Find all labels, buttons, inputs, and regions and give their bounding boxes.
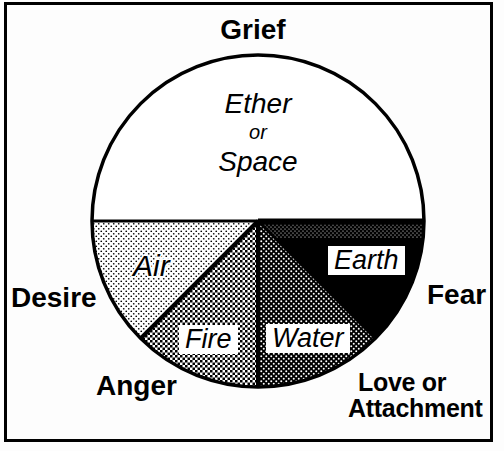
element-label-or: or [158,120,358,145]
emotion-label-anger: Anger [96,371,177,401]
element-label-ether-space: Ether or Space [158,87,358,178]
element-label-air: Air [133,249,170,283]
emotion-label-fear: Fear [427,280,486,310]
element-label-water: Water [266,324,350,353]
emotion-label-love-line2: Attachment [348,395,483,421]
emotion-label-love-attachment: Love or Attachment [348,369,483,421]
emotion-label-desire: Desire [11,283,97,313]
earth-halftone-band [258,224,426,238]
element-label-earth: Earth [328,246,405,275]
element-label-space: Space [158,145,358,178]
element-label-fire: Fire [179,325,238,354]
five-elements-emotions-diagram: Grief Desire Anger Fear Love or Attachme… [0,0,504,451]
emotion-label-grief: Grief [183,15,323,45]
emotion-label-love-line1: Love or [348,369,483,395]
element-label-ether: Ether [158,87,358,120]
